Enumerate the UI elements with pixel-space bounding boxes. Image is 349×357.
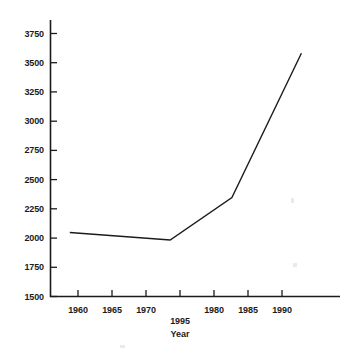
x-tick-label-1960: 1960 [68, 305, 88, 315]
scan-speckle [293, 263, 297, 267]
scan-speckle [291, 198, 294, 203]
x-tick-label-1995: 1995 [170, 316, 190, 326]
x-tick-label-1970: 1970 [136, 305, 156, 315]
y-tick-label-2000: 2000 [10, 233, 44, 243]
y-tick-label-3250: 3250 [10, 87, 44, 97]
y-axis-ticks [51, 34, 58, 297]
line-chart-plot [0, 0, 349, 357]
axis-spines [51, 20, 341, 297]
y-tick-label-1750: 1750 [10, 262, 44, 272]
series-line [70, 53, 302, 240]
x-tick-label-1980: 1980 [204, 305, 224, 315]
scan-speckle [120, 345, 125, 348]
y-tick-label-2750: 2750 [10, 145, 44, 155]
y-tick-label-2500: 2500 [10, 175, 44, 185]
x-axis-title: Year [170, 329, 189, 339]
y-tick-label-1500: 1500 [10, 292, 44, 302]
y-tick-label-2250: 2250 [10, 204, 44, 214]
y-tick-label-3000: 3000 [10, 116, 44, 126]
y-tick-label-3750: 3750 [10, 29, 44, 39]
y-tick-label-3500: 3500 [10, 58, 44, 68]
x-tick-label-1985: 1985 [238, 305, 258, 315]
chart-figure: 3750 3500 3250 3000 2750 2500 2250 2000 … [0, 0, 349, 357]
x-tick-label-1965: 1965 [102, 305, 122, 315]
x-axis-ticks [78, 290, 282, 297]
x-tick-label-1990: 1990 [272, 305, 292, 315]
